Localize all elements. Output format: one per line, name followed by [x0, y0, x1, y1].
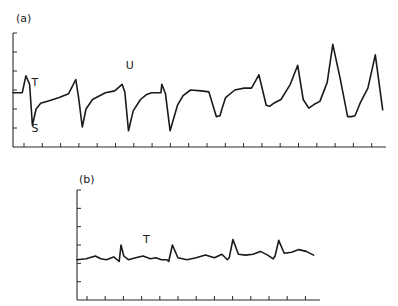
panel-label-b: (b): [79, 173, 95, 186]
series-line-trace: [13, 44, 383, 130]
panel-a: TSU: [13, 33, 386, 147]
annotation-u: U: [126, 59, 134, 72]
panel-b: T: [77, 190, 320, 300]
annotation-s: S: [31, 122, 38, 135]
annotation-t: T: [30, 76, 38, 89]
series-line-trace: [77, 240, 314, 262]
panel-label-a: (a): [16, 12, 31, 25]
annotation-t: T: [142, 233, 150, 246]
chart-figure: (a) TSU (b) T: [0, 0, 398, 306]
